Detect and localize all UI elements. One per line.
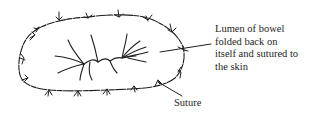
suture-label: Suture bbox=[174, 97, 201, 110]
suture-leader-line bbox=[158, 82, 182, 96]
mucosal-fold-lines bbox=[55, 34, 148, 80]
suture-marks bbox=[20, 10, 188, 96]
skin-edge-outline bbox=[19, 15, 184, 91]
lumen-label: Lumen of bowel folded back on itself and… bbox=[215, 23, 329, 73]
